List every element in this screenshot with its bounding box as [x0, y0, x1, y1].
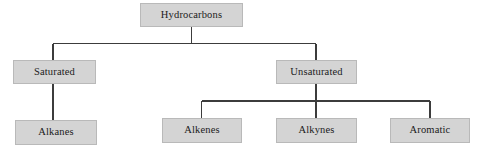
node-alkynes-label: Alkynes: [298, 125, 334, 136]
node-aromatic-label: Aromatic: [410, 125, 451, 136]
node-saturated[interactable]: Saturated: [13, 60, 96, 84]
node-hydrocarbons-label: Hydrocarbons: [161, 10, 222, 21]
node-aromatic[interactable]: Aromatic: [390, 118, 470, 143]
node-alkanes[interactable]: Alkanes: [15, 120, 97, 145]
node-alkenes-label: Alkenes: [184, 125, 219, 136]
node-unsaturated[interactable]: Unsaturated: [276, 60, 357, 84]
node-unsaturated-label: Unsaturated: [290, 67, 342, 78]
node-alkanes-label: Alkanes: [38, 127, 73, 138]
node-alkenes[interactable]: Alkenes: [162, 118, 242, 143]
node-saturated-label: Saturated: [34, 67, 75, 78]
node-alkynes[interactable]: Alkynes: [276, 118, 357, 143]
hydrocarbons-tree-diagram: Hydrocarbons Saturated Unsaturated Alkan…: [0, 0, 479, 160]
node-hydrocarbons[interactable]: Hydrocarbons: [140, 3, 243, 27]
